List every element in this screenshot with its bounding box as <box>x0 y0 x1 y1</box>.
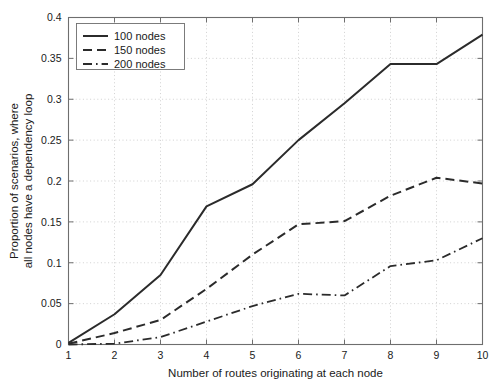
figure-background <box>0 0 499 386</box>
y-tick-label: 0.25 <box>41 134 62 146</box>
x-tick-label: 3 <box>158 349 164 361</box>
x-tick-label: 2 <box>112 349 118 361</box>
legend-entry-label: 150 nodes <box>114 44 166 56</box>
x-tick-label: 5 <box>250 349 256 361</box>
y-tick-label: 0 <box>56 338 62 350</box>
chart-legend[interactable]: 100 nodes150 nodes200 nodes <box>77 24 185 71</box>
line-chart: 12345678910 00.050.10.150.20.250.30.350.… <box>0 0 499 386</box>
x-tick-label: 1 <box>66 349 72 361</box>
y-tick-label: 0.05 <box>41 297 62 309</box>
x-tick-label: 8 <box>388 349 394 361</box>
x-tick-label: 6 <box>296 349 302 361</box>
y-tick-label: 0.4 <box>47 11 62 23</box>
y-tick-label: 0.3 <box>47 93 62 105</box>
y-tick-label: 0.15 <box>41 216 62 228</box>
legend-entry-label: 200 nodes <box>114 58 166 70</box>
y-axis-title-line1: Proportion of scenarios, where <box>8 103 20 259</box>
x-tick-label: 9 <box>434 349 440 361</box>
y-tick-label: 0.1 <box>47 257 62 269</box>
x-tick-label: 4 <box>204 349 210 361</box>
x-tick-label: 7 <box>342 349 348 361</box>
x-axis-title: Number of routes originating at each nod… <box>168 367 383 379</box>
x-tick-label: 10 <box>477 349 489 361</box>
y-tick-label: 0.2 <box>47 175 62 187</box>
y-tick-label: 0.35 <box>41 52 62 64</box>
legend-entry-label: 100 nodes <box>114 30 166 42</box>
y-axis-title-line2: all nodes have a dependency loop <box>22 94 34 269</box>
chart-figure: 12345678910 00.050.10.150.20.250.30.350.… <box>0 0 499 386</box>
